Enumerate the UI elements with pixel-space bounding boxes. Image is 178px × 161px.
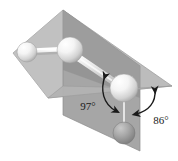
atom-inner-right (110, 74, 138, 102)
angle-label-97: 97° (80, 100, 95, 112)
atom-terminal-bottom (113, 122, 135, 144)
figure-canvas: 97° 86° (0, 0, 178, 161)
angle-label-86: 86° (153, 114, 168, 126)
atom-terminal-left (17, 42, 37, 62)
atom-inner-left (57, 37, 83, 63)
molecular-geometry-figure: 97° 86° (0, 0, 178, 161)
